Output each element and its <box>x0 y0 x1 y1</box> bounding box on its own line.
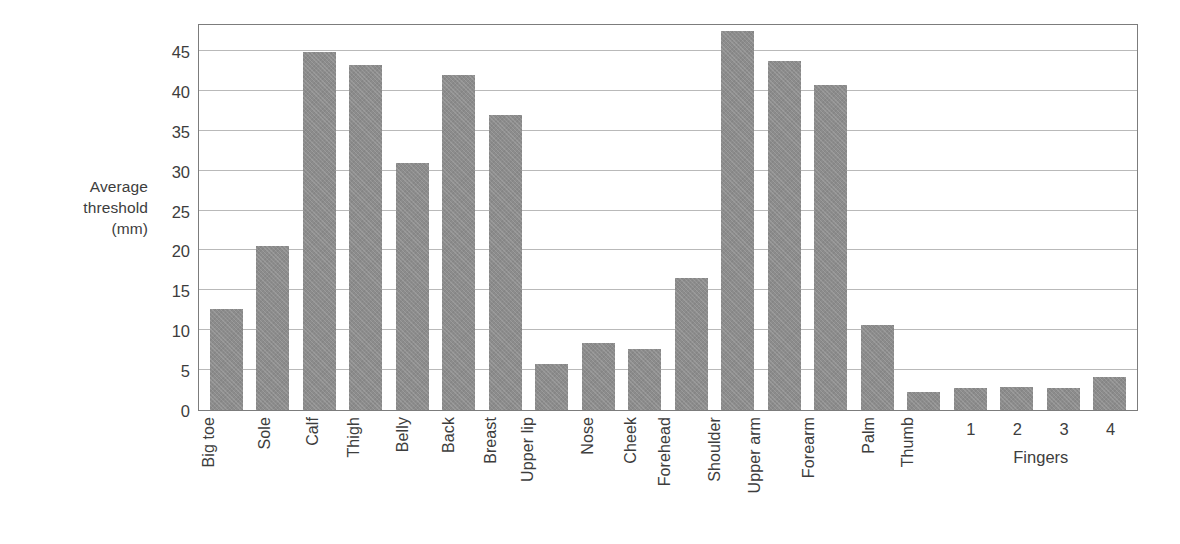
y-axis-tick-label: 35 <box>172 122 190 141</box>
bar-slot <box>203 25 250 410</box>
x-label-slot: Back <box>435 413 482 541</box>
x-label-slot: Belly <box>388 413 435 541</box>
bar[interactable] <box>210 309 243 410</box>
y-axis-tick-label: 5 <box>181 362 190 381</box>
bar[interactable] <box>907 392 940 410</box>
x-axis-tick-label: Calf <box>304 417 322 446</box>
x-label-slot: 1 <box>948 413 995 541</box>
bar[interactable] <box>675 278 708 410</box>
x-axis-tick-label: Palm <box>859 417 877 454</box>
x-axis-tick-label: Back <box>440 417 458 453</box>
bar-slot <box>575 25 622 410</box>
x-axis-tick-label: Sole <box>256 417 274 449</box>
y-axis-tick-label: 45 <box>172 42 190 61</box>
bar[interactable] <box>582 343 615 410</box>
bar-slot <box>389 25 436 410</box>
x-axis-group-label: Fingers <box>981 448 1101 467</box>
y-axis-tick-labels: 051015202530354045 <box>140 24 190 411</box>
x-axis-tick-label: 3 <box>1041 420 1088 439</box>
bar[interactable] <box>303 52 336 410</box>
bar[interactable] <box>768 61 801 410</box>
bar-slot <box>529 25 576 410</box>
bar-slot <box>994 25 1041 410</box>
bar-slot <box>296 25 343 410</box>
x-label-slot: 4 <box>1087 413 1134 541</box>
x-axis-tick-label: 2 <box>994 420 1041 439</box>
x-axis-tick-label: Nose <box>579 417 597 455</box>
y-axis-tick-label: 0 <box>181 402 190 421</box>
bar-slot <box>1087 25 1134 410</box>
x-label-slot: Thigh <box>342 413 389 541</box>
bar[interactable] <box>349 65 382 411</box>
x-axis-tick-label: Cheek <box>621 417 639 464</box>
x-axis-tick-label: Big toe <box>200 417 218 468</box>
bar[interactable] <box>396 163 429 410</box>
bar-slot <box>482 25 529 410</box>
x-axis-tick-label: Forehead <box>657 417 675 486</box>
bar-slot <box>1040 25 1087 410</box>
x-axis-tick-label: Upper lip <box>519 417 537 482</box>
y-axis-tick-label: 25 <box>172 202 190 221</box>
y-axis-tick-label: 15 <box>172 282 190 301</box>
y-axis-tick-label: 10 <box>172 322 190 341</box>
bar[interactable] <box>1093 377 1126 411</box>
x-axis-tick-label: Breast <box>481 417 499 464</box>
bar[interactable] <box>256 246 289 410</box>
bar[interactable] <box>1047 388 1080 410</box>
bar[interactable] <box>489 115 522 410</box>
x-label-slot: 2 <box>994 413 1041 541</box>
x-label-slot: Forearm <box>808 413 855 541</box>
x-axis-tick-label: 1 <box>948 420 995 439</box>
bar-slot <box>808 25 855 410</box>
x-axis-tick-label: Thumb <box>899 417 917 467</box>
bar-slot <box>854 25 901 410</box>
x-label-slot: 3 <box>1041 413 1088 541</box>
bar-slot <box>901 25 948 410</box>
bar[interactable] <box>1000 387 1033 410</box>
x-axis-tick-label: 4 <box>1087 420 1134 439</box>
x-label-slot: Thumb <box>901 413 948 541</box>
bar[interactable] <box>814 85 847 410</box>
y-axis-tick-label: 30 <box>172 162 190 181</box>
bar-slot <box>436 25 483 410</box>
y-axis-tick-label: 40 <box>172 82 190 101</box>
x-label-slot: Nose <box>575 413 622 541</box>
y-axis-title-line-2: threshold <box>8 197 148 218</box>
x-axis-tick-label: Belly <box>394 417 412 452</box>
x-label-slot: Upper lip <box>528 413 575 541</box>
bar[interactable] <box>721 31 754 410</box>
bar[interactable] <box>861 325 894 410</box>
bar[interactable] <box>442 75 475 410</box>
plot-area <box>198 24 1138 411</box>
x-axis-tick-label: Upper arm <box>746 417 764 493</box>
bar[interactable] <box>954 388 987 410</box>
bar[interactable] <box>628 349 661 410</box>
y-axis-title-line-1: Average <box>8 176 148 197</box>
x-axis-tick-labels: Big toeSoleCalfThighBellyBackBreastUpper… <box>198 413 1138 541</box>
x-axis-tick-label: Shoulder <box>705 417 723 482</box>
bar-slot <box>622 25 669 410</box>
x-label-slot: Palm <box>854 413 901 541</box>
bar-slot <box>668 25 715 410</box>
bar-chart: Average threshold (mm) 05101520253035404… <box>0 0 1180 544</box>
x-label-slot: Calf <box>295 413 342 541</box>
y-axis-title: Average threshold (mm) <box>8 176 148 239</box>
bar-series <box>199 25 1137 410</box>
bar-slot <box>947 25 994 410</box>
y-axis-title-line-3: (mm) <box>8 218 148 239</box>
bar-slot <box>715 25 762 410</box>
y-axis-tick-label: 20 <box>172 242 190 261</box>
x-label-slot: Big toe <box>202 413 249 541</box>
bar-slot <box>343 25 390 410</box>
bar[interactable] <box>535 364 568 410</box>
bar-slot <box>250 25 297 410</box>
x-axis-tick-label: Forearm <box>800 417 818 478</box>
x-label-slot: Sole <box>249 413 296 541</box>
x-axis-tick-label: Thigh <box>345 417 363 458</box>
bar-slot <box>761 25 808 410</box>
